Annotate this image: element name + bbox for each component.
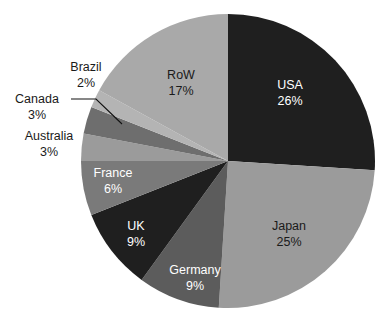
pie-value-row: 17% (168, 84, 193, 98)
pie-value-canada: 3% (28, 108, 46, 122)
pie-label-usa: USA (277, 78, 303, 92)
pie-value-france: 6% (104, 182, 122, 196)
pie-value-usa: 26% (277, 94, 302, 108)
pie-label-uk: UK (127, 219, 145, 233)
pie-label-germany: Germany (169, 263, 221, 277)
pie-value-australia: 3% (40, 145, 58, 159)
pie-label-japan: Japan (272, 219, 306, 233)
pie-value-germany: 9% (186, 279, 204, 293)
pie-label-france: France (94, 166, 133, 180)
pie-label-canada: Canada (15, 92, 59, 106)
pie-chart-container: USA26%Japan25%Germany9%UK9%France6%Austr… (0, 0, 384, 322)
pie-value-brazil: 2% (77, 76, 95, 90)
pie-value-uk: 9% (127, 235, 145, 249)
pie-slices-group (81, 14, 375, 308)
pie-chart: USA26%Japan25%Germany9%UK9%France6%Austr… (0, 0, 384, 322)
pie-label-row: RoW (167, 68, 195, 82)
pie-label-australia: Australia (25, 129, 74, 143)
pie-label-brazil: Brazil (70, 60, 101, 74)
pie-value-japan: 25% (276, 235, 301, 249)
